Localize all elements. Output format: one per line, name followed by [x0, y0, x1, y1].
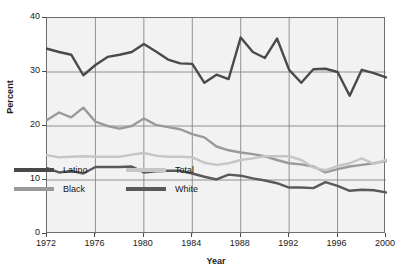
- x-tick-label: 1992: [271, 239, 305, 248]
- y-axis-title: Percent: [5, 69, 15, 125]
- legend-swatch-black: [14, 187, 54, 191]
- plot-area: [46, 17, 385, 233]
- legend-label-black: Black: [63, 184, 85, 194]
- x-tick-label: 1980: [126, 239, 160, 248]
- legend-item-total: Total: [126, 160, 241, 179]
- legend-swatch-total: [126, 168, 166, 172]
- legend-item-latino: Latino: [14, 160, 129, 179]
- x-tick-label: 2000: [368, 239, 402, 248]
- legend: Latino Black Total White: [14, 160, 244, 200]
- chart-figure: Percent Year 010203040 19721976198019841…: [0, 0, 407, 276]
- series-line-latino: [47, 37, 386, 95]
- legend-label-latino: Latino: [63, 165, 88, 175]
- y-tick-label: 20: [14, 120, 40, 129]
- legend-swatch-latino: [14, 168, 54, 172]
- legend-label-white: White: [175, 184, 198, 194]
- y-tick-label: 30: [14, 66, 40, 75]
- y-tick-label: 40: [14, 12, 40, 21]
- legend-column-left: Latino Black: [14, 160, 129, 198]
- x-axis-title: Year: [46, 256, 386, 266]
- y-tick-label: 0: [14, 228, 40, 237]
- x-tick-label: 1988: [223, 239, 257, 248]
- legend-label-total: Total: [175, 165, 194, 175]
- series-layer: [47, 18, 386, 234]
- x-tick-label: 1996: [320, 239, 354, 248]
- x-tick-label: 1972: [29, 239, 63, 248]
- legend-column-right: Total White: [126, 160, 241, 198]
- x-tick-label: 1984: [174, 239, 208, 248]
- x-tick-label: 1976: [77, 239, 111, 248]
- legend-swatch-white: [126, 187, 166, 191]
- legend-item-white: White: [126, 179, 241, 198]
- legend-item-black: Black: [14, 179, 129, 198]
